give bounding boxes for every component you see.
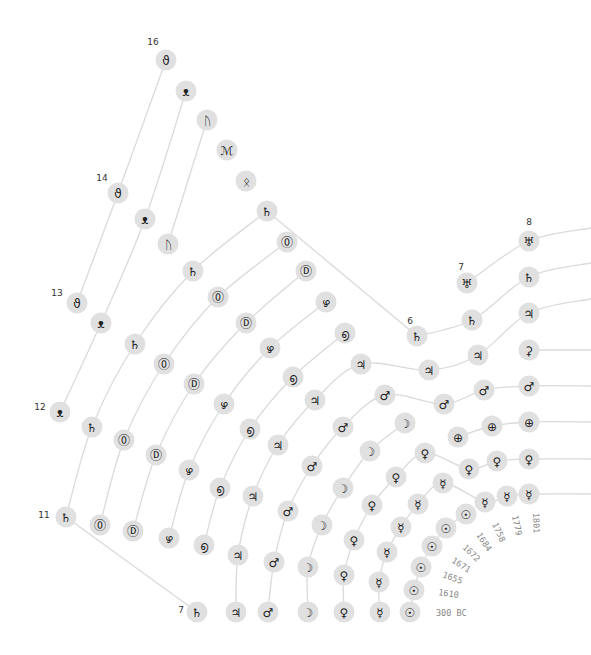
node-saturn: ♄ bbox=[257, 201, 278, 222]
uranus-symbol-icon: ♅ bbox=[462, 277, 473, 291]
mars-symbol-icon: ♂ bbox=[479, 384, 490, 398]
jupiter-symbol-icon: ♃ bbox=[356, 358, 367, 372]
mercury-symbol-icon: ☿ bbox=[397, 521, 404, 535]
io-symbol-icon: ⓪ bbox=[281, 236, 293, 250]
node-jupiter: ♃ bbox=[268, 435, 289, 456]
europa-symbol-icon: Ⓓ bbox=[127, 525, 139, 539]
node-venus: ♀ bbox=[519, 449, 540, 470]
node-venus: ♀ bbox=[459, 459, 480, 480]
node-mars: ♂ bbox=[333, 417, 354, 438]
node-rhea: ᚢ bbox=[197, 110, 218, 131]
tethys-symbol-icon: ℳ bbox=[221, 144, 234, 158]
earth-symbol-icon: ⊕ bbox=[453, 431, 463, 445]
node-sun: ☉ bbox=[411, 557, 432, 578]
node-mars: ♂ bbox=[434, 394, 455, 415]
mercury-symbol-icon: ☿ bbox=[375, 576, 382, 590]
node-iapetus: ϑ bbox=[108, 183, 129, 204]
node-earth: ⊕ bbox=[482, 416, 503, 437]
node-saturn: ♄ bbox=[125, 334, 146, 355]
node-mercury: ☿ bbox=[408, 494, 429, 515]
node-titan: ᴥ bbox=[91, 313, 112, 334]
ganymede-symbol-icon: ഴ bbox=[266, 342, 274, 356]
titan-symbol-icon: ᴥ bbox=[56, 406, 64, 420]
node-moon: ☽ bbox=[298, 557, 319, 578]
node-moon: ☽ bbox=[395, 413, 416, 434]
jupiter-symbol-icon: ♃ bbox=[231, 606, 242, 620]
venus-symbol-icon: ♀ bbox=[392, 471, 401, 485]
node-mercury: ☿ bbox=[370, 602, 391, 623]
node-ganymede: ഴ bbox=[214, 394, 235, 415]
node-venus: ♀ bbox=[334, 565, 355, 586]
europa-symbol-icon: Ⓓ bbox=[300, 265, 312, 279]
node-titan: ᴥ bbox=[176, 81, 197, 102]
node-jupiter: ♃ bbox=[305, 390, 326, 411]
node-venus: ♀ bbox=[415, 443, 436, 464]
ganymede-symbol-icon: ഴ bbox=[322, 296, 330, 310]
jupiter-symbol-icon: ♃ bbox=[233, 549, 244, 563]
callisto-symbol-icon: ൭ bbox=[200, 539, 209, 553]
node-jupiter: ♃ bbox=[468, 345, 489, 366]
callisto-symbol-icon: ൭ bbox=[289, 371, 298, 385]
node-ganymede: ഴ bbox=[316, 292, 337, 313]
node-callisto: ൭ bbox=[335, 323, 356, 344]
saturn-symbol-icon: ♄ bbox=[262, 205, 273, 219]
venus-symbol-icon: ♀ bbox=[368, 499, 377, 513]
saturn-symbol-icon: ♄ bbox=[61, 511, 72, 525]
node-earth: ⊕ bbox=[448, 427, 469, 448]
iapetus-symbol-icon: ϑ bbox=[73, 297, 80, 311]
callisto-symbol-icon: ൭ bbox=[341, 327, 350, 341]
node-saturn: ♄ bbox=[519, 267, 540, 288]
node-saturn: ♄ bbox=[462, 310, 483, 331]
mercury-symbol-icon: ☿ bbox=[414, 498, 421, 512]
year-label: 1610 bbox=[438, 587, 460, 600]
mars-symbol-icon: ♂ bbox=[439, 398, 450, 412]
node-mercury: ☿ bbox=[433, 473, 454, 494]
venus-symbol-icon: ♀ bbox=[493, 455, 502, 469]
node-ganymede: ഴ bbox=[159, 528, 180, 549]
node-jupiter: ♃ bbox=[351, 354, 372, 375]
node-jupiter: ♃ bbox=[226, 602, 247, 623]
year-label: 1779 bbox=[510, 514, 524, 536]
earth-symbol-icon: ⊕ bbox=[524, 416, 534, 430]
node-venus: ♀ bbox=[487, 451, 508, 472]
body-count-label: 16 bbox=[147, 37, 159, 47]
node-callisto: ൭ bbox=[194, 535, 215, 556]
node-mars: ♂ bbox=[302, 456, 323, 477]
titan-symbol-icon: ᴥ bbox=[97, 317, 105, 331]
node-sun: ☉ bbox=[456, 504, 477, 525]
node-saturn: ♄ bbox=[56, 507, 77, 528]
body-count-label: 7 bbox=[458, 262, 464, 272]
node-saturn: ♄ bbox=[183, 261, 204, 282]
year-label: 1655 bbox=[441, 569, 464, 585]
diagram-canvas: ☉☉☉☉☉☉☿☿☿☿☿☿☿☿☿♀♀♀♀♀♀♀♀♀⊕⊕⊕☽☽☽☽☽☽♂♂♂♂♂♂♂… bbox=[0, 0, 591, 655]
venus-symbol-icon: ♀ bbox=[421, 447, 430, 461]
body-count-label: 13 bbox=[51, 288, 62, 298]
mars-symbol-icon: ♂ bbox=[524, 380, 535, 394]
sun-symbol-icon: ☉ bbox=[461, 508, 472, 522]
body-count-label: 6 bbox=[407, 316, 413, 326]
sun-symbol-icon: ☉ bbox=[427, 540, 438, 554]
sun-symbol-icon: ☉ bbox=[416, 561, 427, 575]
mercury-symbol-icon: ☿ bbox=[503, 490, 510, 504]
node-ceres: ⚳ bbox=[519, 340, 540, 361]
node-uranus: ♅ bbox=[457, 273, 478, 294]
moon-symbol-icon: ☽ bbox=[303, 606, 314, 620]
body-count-label: 7 bbox=[178, 605, 184, 615]
node-moon: ☽ bbox=[312, 515, 333, 536]
node-mars: ♂ bbox=[375, 385, 396, 406]
node-saturn: ♄ bbox=[187, 602, 208, 623]
node-mars: ♂ bbox=[278, 501, 299, 522]
year-label: 1758 bbox=[490, 521, 507, 544]
node-mars: ♂ bbox=[264, 552, 285, 573]
node-earth: ⊕ bbox=[519, 412, 540, 433]
moon-symbol-icon: ☽ bbox=[365, 445, 376, 459]
jupiter-symbol-icon: ♃ bbox=[473, 349, 484, 363]
io-symbol-icon: ⓪ bbox=[212, 291, 224, 305]
saturn-symbol-icon: ♄ bbox=[87, 421, 98, 435]
mercury-symbol-icon: ☿ bbox=[383, 546, 390, 560]
ganymede-symbol-icon: ഴ bbox=[220, 398, 228, 412]
rhea-symbol-icon: ᚢ bbox=[204, 114, 211, 128]
node-jupiter: ♃ bbox=[419, 360, 440, 381]
node-mars: ♂ bbox=[519, 376, 540, 397]
saturn-symbol-icon: ♄ bbox=[524, 271, 535, 285]
